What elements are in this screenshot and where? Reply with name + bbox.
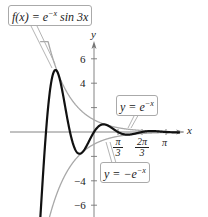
plot-area <box>0 0 208 217</box>
tick-den: 3 <box>116 147 121 158</box>
f-curve <box>36 70 180 217</box>
x-axis-label: x <box>187 124 192 136</box>
lower-label-exponent: −x <box>137 166 146 175</box>
upper-envelope-label: y = e−x <box>116 95 158 116</box>
tick-label-pi-over-3: π3 <box>112 137 124 158</box>
tick-label-y-neg6: −6 <box>74 199 86 211</box>
f-label-text: f(x) = e <box>12 10 48 24</box>
tick-label-2pi-over-3: 2π3 <box>134 137 150 158</box>
tick-label-pi: π <box>162 137 167 148</box>
tick-num: π <box>115 136 120 147</box>
f-label-suffix: sin 3x <box>57 10 88 24</box>
upper-label-exponent: −x <box>145 99 154 108</box>
y-axis-label: y <box>91 28 96 40</box>
lower-label-text: y = −e <box>104 167 137 181</box>
tick-label-y6: 6 <box>80 53 86 65</box>
tick-num: 2π <box>137 136 147 147</box>
f-label-pointer <box>37 26 55 64</box>
f-label-exponent: −x <box>48 9 57 18</box>
lower-envelope-label: y = −e−x <box>100 162 150 183</box>
curves <box>36 42 184 217</box>
tick-label-y4: 4 <box>80 77 86 89</box>
tick-den: 3 <box>140 147 145 158</box>
upper-label-text: y = e <box>120 100 145 114</box>
tick-label-y-neg4: −4 <box>74 175 86 187</box>
f-function-label: f(x) = e−x sin 3x <box>8 5 92 26</box>
